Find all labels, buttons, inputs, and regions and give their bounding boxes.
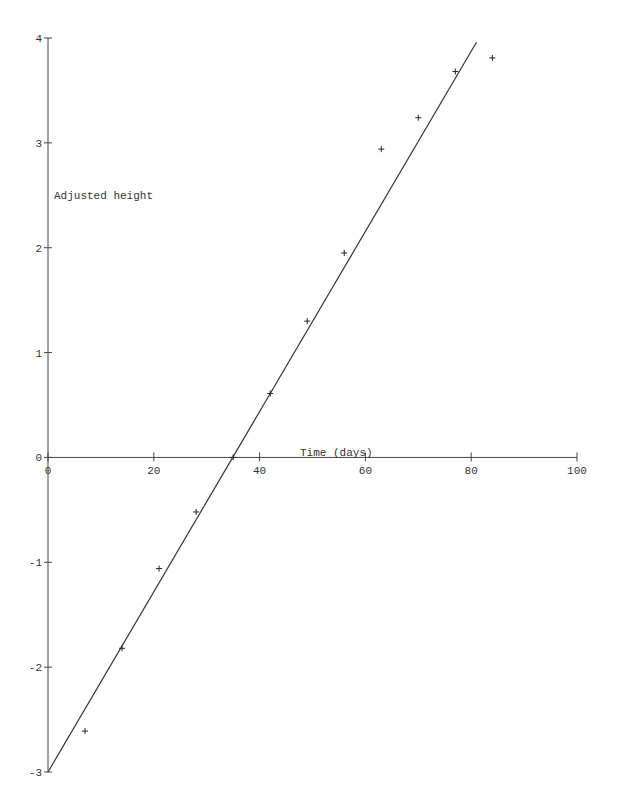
chart: -3-2-101234020406080100 Adjusted height … [0, 0, 623, 805]
y-tick-label: -3 [29, 767, 42, 779]
y-tick-label: 0 [35, 452, 42, 464]
data-points [82, 55, 495, 734]
regression-line [48, 42, 476, 772]
axes: -3-2-101234020406080100 [29, 33, 587, 779]
y-axis-title: Adjusted height [54, 190, 153, 202]
data-point-marker [415, 115, 421, 121]
data-point-marker [156, 566, 162, 572]
fitted-line [48, 42, 476, 772]
x-tick-label: 40 [253, 465, 266, 477]
data-point-marker [489, 55, 495, 61]
x-tick-label: 0 [45, 465, 52, 477]
x-tick-label: 80 [465, 465, 478, 477]
y-tick-label: 2 [35, 243, 42, 255]
y-tick-label: 3 [35, 138, 42, 150]
x-tick-label: 20 [147, 465, 160, 477]
x-tick-label: 100 [567, 465, 587, 477]
data-point-marker [193, 509, 199, 515]
y-tick-label: 1 [35, 348, 42, 360]
data-point-marker [341, 250, 347, 256]
y-tick-label: -1 [29, 557, 43, 569]
data-point-marker [267, 390, 273, 396]
data-point-marker [378, 146, 384, 152]
x-axis-title: Time (days) [300, 447, 373, 459]
data-point-marker [304, 318, 310, 324]
data-point-marker [82, 728, 88, 734]
y-tick-label: -2 [29, 662, 42, 674]
x-tick-label: 60 [359, 465, 372, 477]
y-tick-label: 4 [35, 33, 42, 45]
